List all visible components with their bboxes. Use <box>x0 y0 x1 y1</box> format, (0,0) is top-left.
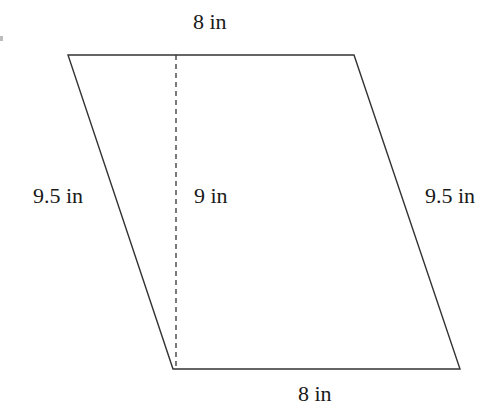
bottom-side-label: 8 in <box>298 383 332 405</box>
height-label: 9 in <box>194 185 228 207</box>
parallelogram-shape <box>68 55 460 369</box>
right-side-label: 9.5 in <box>425 185 475 207</box>
left-side-label: 9.5 in <box>33 185 83 207</box>
top-side-label: 8 in <box>193 11 227 33</box>
